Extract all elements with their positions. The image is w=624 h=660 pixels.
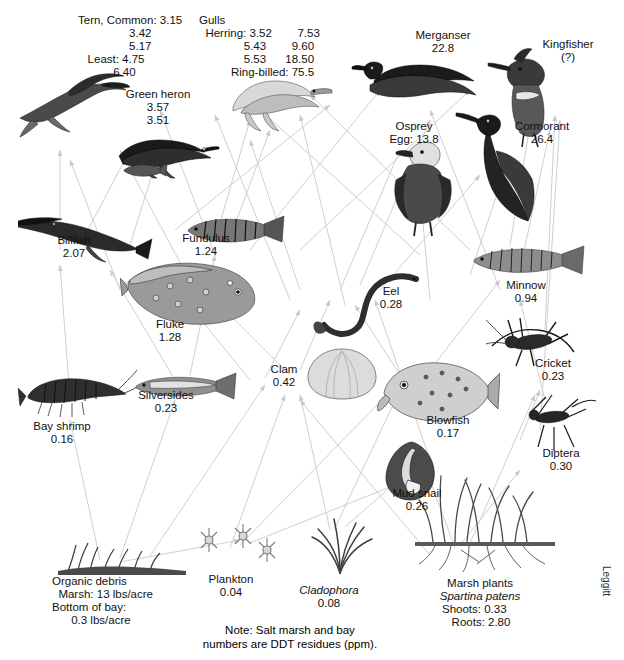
plankton-illustration bbox=[195, 518, 283, 570]
label-clam: Clam 0.42 bbox=[262, 363, 306, 389]
figure-note: Note: Salt marsh and bay numbers are DDT… bbox=[160, 624, 420, 651]
label-fluke: Fluke 1.28 bbox=[143, 318, 197, 344]
label-cladophora-name: Cladophora bbox=[290, 584, 368, 597]
label-bay-shrimp: Bay shrimp 0.16 bbox=[22, 420, 102, 446]
label-kingfisher: Kingfisher (?) bbox=[526, 38, 610, 64]
label-mud-snail: Mud snail 0.26 bbox=[382, 487, 452, 513]
label-green-heron: Green heron 3.57 3.51 bbox=[112, 88, 204, 127]
food-web-diagram: Tern, Common: 3.15 3.42 5.17 Least: 4.75… bbox=[0, 0, 624, 660]
label-minnow: Minnow 0.94 bbox=[493, 279, 559, 305]
label-marsh-plants-values: Shoots: 0.33 Roots: 2.80 bbox=[442, 603, 510, 629]
label-silversides: Silversides 0.23 bbox=[128, 389, 204, 415]
label-marsh-plants-name: Marsh plants bbox=[432, 577, 528, 590]
label-osprey: Osprey Egg: 13.8 bbox=[376, 120, 452, 146]
label-billfish: Billfish 2.07 bbox=[44, 234, 104, 260]
label-organic-debris: Organic debris Marsh: 13 lbs/acre Bottom… bbox=[52, 575, 153, 627]
label-blowfish: Blowfish 0.17 bbox=[416, 414, 480, 440]
label-cricket: Cricket 0.23 bbox=[522, 357, 584, 383]
cladophora-illustration bbox=[300, 505, 380, 575]
label-fundulus: Fundulus 1.24 bbox=[168, 232, 244, 258]
label-plankton: Plankton 0.04 bbox=[198, 573, 264, 599]
label-tern: Tern, Common: 3.15 3.42 5.17 Least: 4.75… bbox=[78, 14, 182, 79]
artist-credit: Leggitt bbox=[601, 566, 612, 596]
clam-illustration bbox=[306, 345, 378, 403]
label-gulls: Gulls Herring: 3.52 7.53 5.43 9.60 5.53 … bbox=[199, 14, 320, 79]
organic-debris-illustration bbox=[58, 535, 188, 575]
label-merganser: Merganser 22.8 bbox=[400, 29, 486, 55]
label-marsh-plants-species: Spartina patens bbox=[432, 590, 528, 603]
bay-shrimp-illustration bbox=[18, 362, 138, 424]
minnow-illustration bbox=[468, 240, 588, 282]
label-cormorant: Cormorant 26.4 bbox=[500, 120, 584, 146]
prey-fish-illustration bbox=[120, 160, 168, 180]
label-eel: Eel 0.28 bbox=[370, 285, 412, 311]
label-diptera: Diptera 0.30 bbox=[530, 447, 592, 473]
label-cladophora-value: 0.08 bbox=[290, 597, 368, 610]
